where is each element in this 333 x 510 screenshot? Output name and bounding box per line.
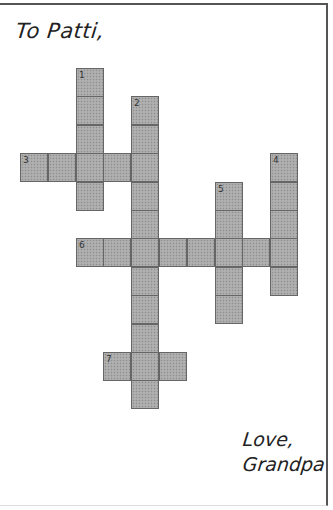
- crossword-cell[interactable]: [76, 182, 104, 211]
- crossword-cell[interactable]: [131, 295, 159, 324]
- crossword-cell[interactable]: [270, 210, 298, 239]
- crossword-cell[interactable]: [159, 238, 187, 267]
- crossword-cell[interactable]: [48, 153, 76, 182]
- signoff-line-1: Love,: [242, 428, 295, 450]
- clue-number: 1: [79, 70, 85, 80]
- clue-number: 5: [218, 184, 224, 194]
- clue-number: 6: [79, 240, 85, 250]
- crossword-cell[interactable]: [270, 182, 298, 211]
- crossword-cell[interactable]: [270, 267, 298, 296]
- crossword-cell[interactable]: 7: [103, 352, 131, 381]
- crossword-cell[interactable]: [76, 96, 104, 125]
- crossword-cell[interactable]: [131, 352, 159, 381]
- crossword-cell[interactable]: [131, 267, 159, 296]
- greeting-text: To Patti,: [15, 19, 106, 43]
- crossword-cell[interactable]: [187, 238, 215, 267]
- crossword-cell[interactable]: [242, 238, 270, 267]
- crossword-cell[interactable]: 3: [20, 153, 48, 182]
- crossword-cell[interactable]: 1: [76, 68, 104, 97]
- crossword-cell[interactable]: [215, 295, 243, 324]
- crossword-cell[interactable]: [215, 238, 243, 267]
- crossword-cell[interactable]: [159, 352, 187, 381]
- crossword-cell[interactable]: [270, 238, 298, 267]
- crossword-cell[interactable]: [131, 210, 159, 239]
- crossword-cell[interactable]: [131, 324, 159, 353]
- signoff-line-2: Grandpa: [242, 453, 326, 475]
- crossword-cell[interactable]: 5: [215, 182, 243, 211]
- crossword-cell[interactable]: [131, 125, 159, 154]
- crossword-cell[interactable]: [103, 238, 131, 267]
- clue-number: 4: [273, 155, 279, 165]
- crossword-cell[interactable]: [131, 153, 159, 182]
- crossword-cell[interactable]: [131, 380, 159, 409]
- crossword-cell[interactable]: [215, 267, 243, 296]
- crossword-cell[interactable]: 6: [76, 238, 104, 267]
- clue-number: 2: [134, 98, 140, 108]
- clue-number: 3: [23, 155, 29, 165]
- crossword-cell[interactable]: [215, 210, 243, 239]
- crossword-cell[interactable]: [103, 153, 131, 182]
- crossword-cell[interactable]: [76, 125, 104, 154]
- crossword-cell[interactable]: [131, 182, 159, 211]
- crossword-cell[interactable]: [76, 153, 104, 182]
- crossword-cell[interactable]: 4: [270, 153, 298, 182]
- crossword-cell[interactable]: [131, 238, 159, 267]
- clue-number: 7: [106, 354, 112, 364]
- crossword-cell[interactable]: 2: [131, 96, 159, 125]
